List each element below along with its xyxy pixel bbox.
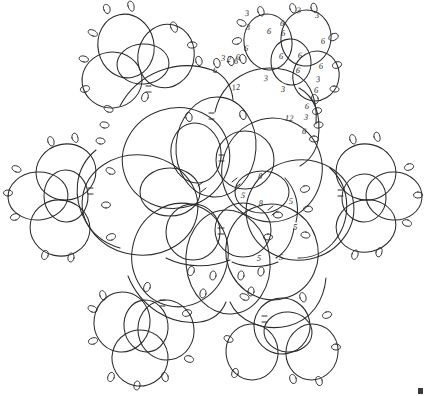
br-picot-2 [322, 312, 331, 319]
r-clover-ring-center [341, 173, 387, 223]
core-petal-ring-bottom-right [212, 191, 331, 313]
stitch-count-label: 3 [245, 22, 250, 32]
chain-picot-i2 [274, 212, 283, 218]
stitch-count-label: 5 [240, 190, 246, 200]
chain-picot-b2 [100, 122, 109, 128]
stitch-count-label: 12 [285, 113, 295, 123]
stitch-count-label: 5 [257, 253, 262, 263]
l-clover-ring-c [25, 194, 95, 261]
cluster-left-clover [4, 133, 102, 262]
bl-picot-4 [108, 372, 115, 381]
tl-picot-6 [79, 56, 88, 62]
l-clover-ring-b [6, 170, 69, 222]
chain-picot-a1 [196, 56, 203, 65]
br-picot-8 [240, 294, 249, 301]
chain-picot-g2 [210, 271, 216, 280]
tl-clover-ring-c [79, 49, 145, 111]
bl-clover-ring-a [90, 288, 154, 355]
chain-picot-h1 [144, 282, 151, 291]
cluster-bottom-left-clover [88, 288, 199, 392]
chain-picot-c1 [186, 112, 193, 121]
r-picot-1 [350, 135, 357, 144]
tl-picot-7 [80, 86, 89, 93]
tl-picot-8 [142, 92, 149, 101]
tatting-pattern-drawing: 333366666666663261233636366128585555 [0, 0, 425, 396]
corner-mark [418, 388, 423, 394]
chain-picot-g1 [188, 266, 195, 275]
stitch-count-label: 6 [318, 61, 324, 71]
stitch-count-label: 3 [295, 5, 301, 15]
chain-picot-b3 [96, 138, 105, 144]
stitch-count-label: 5 [278, 252, 283, 262]
chain-picot-b1 [104, 106, 113, 113]
stitch-count-label: 8 [258, 171, 264, 181]
chain-picot-h2 [200, 289, 206, 298]
bl-clover-ring-c [106, 324, 174, 392]
tr-picot-6 [329, 33, 339, 41]
stitch-count-label: 6 [280, 28, 286, 39]
stitch-count-label: 3 [303, 112, 309, 122]
r-picot-3 [404, 164, 413, 171]
tr-picot-2 [290, 4, 297, 13]
pattern-diagram-canvas: 333366666666663261233636366128585555 [0, 0, 425, 396]
tl-picot-4 [170, 22, 177, 32]
bl-picot-3 [88, 338, 97, 345]
r-clover-ring-c [331, 194, 401, 257]
stitch-count-label: 6 [314, 85, 319, 95]
inner-chain-bottom [232, 262, 278, 267]
tr-picot-4 [237, 20, 246, 27]
chain-picot-e2 [102, 202, 111, 208]
l-picot-3 [12, 166, 21, 173]
chain-picot-f3 [301, 232, 310, 238]
tr-picot-5 [232, 38, 241, 45]
chain-bottom-right-arc [230, 278, 326, 328]
stitch-count-label: 6 [244, 43, 250, 53]
l-picot-1 [48, 137, 55, 146]
stitch-count-label: 6 [320, 36, 326, 46]
cluster-top-left-clover [79, 1, 201, 111]
stitch-count-label: 8 [258, 198, 264, 208]
chain-bottom-left-arc [128, 276, 226, 323]
stitch-count-label: 5 [293, 222, 297, 232]
stitch-count-label: 5 [289, 196, 294, 206]
br-picot-3 [332, 344, 341, 350]
stitch-count-label: 6 [305, 101, 310, 111]
tl-picot-1 [103, 4, 110, 13]
core-petal-ring-top [173, 94, 260, 199]
stitch-count-label: 3 [314, 74, 320, 85]
stitch-count-label: 3 [314, 10, 320, 20]
cluster-right-clover [331, 132, 424, 259]
stitch-count-label: 2 [227, 54, 233, 64]
tr-clover-ring-b [277, 7, 334, 69]
chain-picot-g3 [238, 271, 244, 280]
stitch-count-label: 6 [298, 50, 303, 60]
chain-picot-e1 [106, 168, 115, 175]
bl-picot-7 [184, 356, 193, 363]
chain-picot-c2 [240, 110, 247, 119]
chain-picot-i1 [264, 234, 273, 240]
chain-right-arc [298, 168, 347, 258]
l-picot-2 [72, 133, 78, 142]
tl-join-bar [146, 86, 151, 92]
cluster-top-right-clover [232, 3, 345, 106]
chain-picot-h3 [248, 287, 254, 296]
tl-picot-2 [128, 1, 134, 11]
r-clover-ring-b [364, 170, 423, 222]
br-picot-1 [300, 293, 307, 302]
tl-picot-3 [88, 30, 97, 37]
chain-picot-a4 [240, 54, 247, 63]
chain-picot-e3 [106, 234, 115, 241]
tr-clover-ring-center [269, 37, 314, 87]
stitch-count-label: 3 [243, 8, 250, 19]
br-picot-4 [316, 376, 323, 385]
br-clover-ring-a [249, 293, 315, 359]
stitch-count-label: 12 [231, 81, 242, 92]
tl-clover-ring-a [92, 9, 160, 83]
chain-picot-f1 [300, 186, 309, 193]
tr-picot-8 [330, 86, 339, 92]
stitch-count-label: 3 [262, 73, 268, 83]
r-picot-5 [402, 220, 411, 227]
stitch-count-label: 3 [220, 53, 225, 63]
stitch-count-label: 6 [295, 65, 301, 76]
r-picot-4 [414, 192, 423, 198]
